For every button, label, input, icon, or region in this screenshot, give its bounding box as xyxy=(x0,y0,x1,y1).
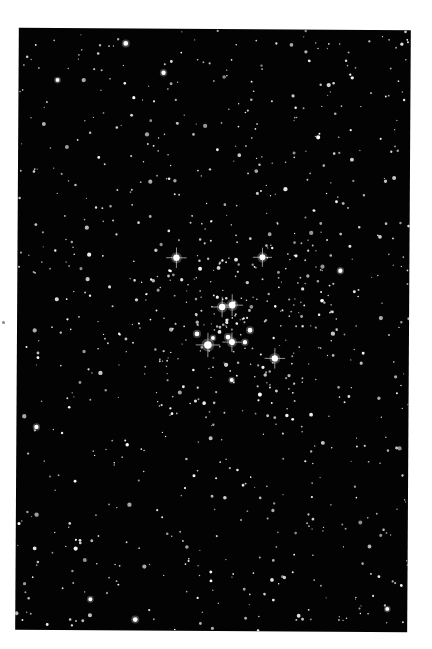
star-field-photo xyxy=(15,28,411,632)
bright-star xyxy=(265,348,286,369)
bright-star xyxy=(122,39,130,47)
bright-star xyxy=(246,326,254,334)
bright-star xyxy=(131,615,139,623)
bright-star xyxy=(160,69,168,77)
star-field xyxy=(15,28,411,632)
bright-star xyxy=(87,596,94,603)
bright-star xyxy=(224,333,232,341)
bright-star xyxy=(253,248,272,267)
bright-star xyxy=(193,330,201,338)
bright-star xyxy=(241,338,249,346)
bright-star xyxy=(166,247,187,268)
bright-star xyxy=(221,294,243,316)
bright-star xyxy=(384,606,391,613)
bright-star xyxy=(337,267,345,275)
bright-star xyxy=(54,77,61,84)
margin-mark xyxy=(2,321,5,324)
bright-star xyxy=(33,423,41,431)
bright-star xyxy=(228,377,235,384)
bright-star xyxy=(210,335,217,342)
